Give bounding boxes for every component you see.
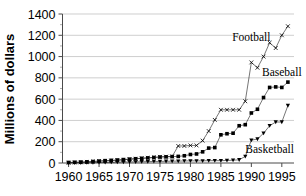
data-point-marker [134,157,138,161]
data-point-marker [286,80,290,84]
data-point-marker [176,155,180,159]
data-point-marker [164,155,168,159]
data-point-marker [262,96,266,100]
y-tick-label-200: 200 [35,135,56,149]
y-tick-label-1000: 1000 [28,50,56,64]
x-tick-label-1980: 1980 [177,170,205,184]
series-label-football: Football [232,31,270,43]
y-tick-label-1200: 1200 [28,29,56,43]
data-point-marker [274,85,278,89]
y-tick-label-1400: 1400 [28,8,56,22]
data-point-marker [213,146,217,150]
data-point-marker [280,86,284,90]
data-point-marker [170,155,174,159]
data-point-marker [189,153,193,157]
data-point-marker [231,131,235,135]
x-tick-label-1990: 1990 [237,170,265,184]
data-point-marker [207,146,211,150]
y-tick-label-400: 400 [35,114,56,128]
series-label-basketball: Basketball [245,143,294,155]
data-point-marker [140,157,144,161]
data-point-marker [195,152,199,156]
chart-container: 0200400600800100012001400 19601965197019… [0,0,306,196]
y-tick-label-0: 0 [49,157,56,171]
data-point-marker [268,86,272,90]
x-tick-label-1985: 1985 [207,170,235,184]
series-label-baseball: Baseball [262,66,302,78]
data-point-marker [225,132,229,136]
y-tick-label-800: 800 [35,71,56,85]
y-tick-label-600: 600 [35,93,56,107]
data-point-marker [152,156,156,160]
data-point-marker [250,111,254,115]
data-point-marker [219,133,223,137]
data-point-marker [146,156,150,160]
data-point-marker [243,123,247,127]
x-tick-label-1960: 1960 [55,170,83,184]
data-point-marker [256,107,260,111]
data-point-marker [201,150,205,154]
x-tick-label-1995: 1995 [268,170,296,184]
data-point-marker [158,155,162,159]
sports-revenue-line-chart: 0200400600800100012001400 19601965197019… [0,0,306,196]
x-tick-label-1975: 1975 [146,170,174,184]
data-point-marker [183,154,187,158]
data-point-marker [237,124,241,128]
x-tick-label-1965: 1965 [85,170,113,184]
y-axis-title: Millions of dollars [2,34,17,145]
x-tick-label-1970: 1970 [116,170,144,184]
